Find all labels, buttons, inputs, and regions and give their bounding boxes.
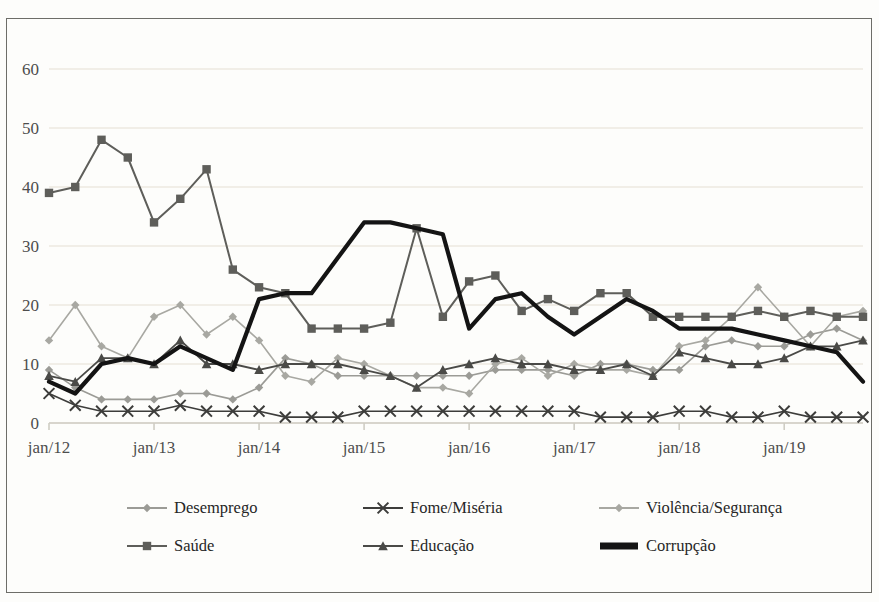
data-point-marker bbox=[334, 324, 342, 332]
y-axis-tick-label: 50 bbox=[22, 119, 39, 138]
x-axis-tick-label: jan/12 bbox=[27, 438, 71, 457]
series-line bbox=[49, 394, 863, 418]
data-point-marker bbox=[833, 324, 841, 332]
data-point-marker bbox=[779, 353, 789, 362]
x-axis-tick-label: jan/17 bbox=[552, 438, 596, 457]
data-point-marker bbox=[596, 289, 604, 297]
legend-label-educacao: Educação bbox=[410, 538, 474, 555]
plot-area: 6050403020100jan/12jan/13jan/14jan/15jan… bbox=[7, 19, 873, 474]
data-point-marker bbox=[150, 313, 158, 321]
data-point-marker bbox=[143, 542, 151, 550]
series-fome-mis-ria bbox=[44, 388, 869, 422]
data-point-marker bbox=[334, 372, 342, 380]
data-point-marker bbox=[779, 406, 790, 417]
legend-swatch-educacao bbox=[361, 538, 405, 554]
y-axis-tick-label: 40 bbox=[22, 178, 39, 197]
legend-swatch-corrupcao bbox=[597, 538, 641, 554]
y-axis-tick-label: 0 bbox=[31, 414, 40, 433]
series-line bbox=[49, 140, 863, 329]
data-point-marker bbox=[675, 313, 683, 321]
data-point-marker bbox=[124, 153, 132, 161]
legend-row-1: Desemprego Fome/Miséria Violência/Segura… bbox=[7, 489, 873, 527]
chart-legend: Desemprego Fome/Miséria Violência/Segura… bbox=[7, 489, 873, 584]
y-axis-tick-label: 30 bbox=[22, 237, 39, 256]
x-axis-tick-label: jan/14 bbox=[237, 438, 281, 457]
data-point-marker bbox=[255, 283, 263, 291]
data-point-marker bbox=[97, 395, 105, 403]
data-point-marker bbox=[45, 189, 53, 197]
data-point-marker bbox=[859, 313, 867, 321]
x-axis-tick-label: jan/16 bbox=[447, 438, 491, 457]
series-line bbox=[49, 287, 863, 393]
data-point-marker bbox=[615, 504, 623, 512]
legend-swatch-desemprego bbox=[125, 500, 169, 516]
data-point-marker bbox=[176, 389, 184, 397]
data-point-marker bbox=[307, 324, 315, 332]
data-point-marker bbox=[143, 504, 151, 512]
data-point-marker bbox=[229, 265, 237, 273]
data-point-marker bbox=[833, 313, 841, 321]
chart-frame: 6050403020100jan/12jan/13jan/14jan/15jan… bbox=[6, 18, 872, 593]
y-axis-tick-label: 10 bbox=[22, 355, 39, 374]
x-axis-tick-label: jan/18 bbox=[657, 438, 701, 457]
data-point-marker bbox=[806, 330, 814, 338]
legend-label-corrupcao: Corrupção bbox=[646, 538, 716, 555]
cut-off-title-strip bbox=[0, 0, 879, 18]
line-chart-svg: 6050403020100jan/12jan/13jan/14jan/15jan… bbox=[7, 19, 873, 474]
data-point-marker bbox=[175, 336, 185, 345]
legend-item-fome-miseria[interactable]: Fome/Miséria bbox=[361, 500, 597, 517]
legend-item-desemprego[interactable]: Desemprego bbox=[125, 500, 361, 517]
data-point-marker bbox=[97, 136, 105, 144]
data-point-marker bbox=[491, 271, 499, 279]
data-point-marker bbox=[754, 307, 762, 315]
legend-label-fome-miseria: Fome/Miséria bbox=[410, 500, 503, 517]
data-point-marker bbox=[780, 313, 788, 321]
legend-swatch-fome-miseria bbox=[361, 500, 405, 516]
data-point-marker bbox=[491, 353, 501, 362]
legend-item-saude[interactable]: Saúde bbox=[125, 538, 361, 555]
legend-label-violencia-seguranca: Violência/Segurança bbox=[646, 500, 782, 517]
data-point-marker bbox=[439, 313, 447, 321]
data-point-marker bbox=[517, 307, 525, 315]
legend-glyph-icon bbox=[597, 538, 641, 554]
data-point-marker bbox=[728, 313, 736, 321]
data-point-marker bbox=[412, 372, 420, 380]
y-axis-tick-label: 20 bbox=[22, 296, 39, 315]
data-point-marker bbox=[754, 342, 762, 350]
data-point-marker bbox=[150, 218, 158, 226]
legend-swatch-violencia-seguranca bbox=[597, 500, 641, 516]
data-point-marker bbox=[544, 295, 552, 303]
data-point-marker bbox=[780, 342, 788, 350]
legend-label-saude: Saúde bbox=[174, 538, 214, 555]
data-point-marker bbox=[674, 347, 684, 356]
x-axis-tick-label: jan/19 bbox=[762, 438, 806, 457]
data-point-marker bbox=[202, 165, 210, 173]
legend-glyph-icon bbox=[125, 500, 169, 516]
legend-glyph-icon bbox=[125, 538, 169, 554]
legend-glyph-icon bbox=[361, 500, 405, 516]
data-point-marker bbox=[176, 195, 184, 203]
data-point-marker bbox=[806, 307, 814, 315]
data-point-marker bbox=[439, 383, 447, 391]
data-point-marker bbox=[71, 183, 79, 191]
legend-glyph-icon bbox=[361, 538, 405, 554]
data-point-marker bbox=[465, 277, 473, 285]
data-point-marker bbox=[175, 400, 186, 411]
data-point-marker bbox=[465, 372, 473, 380]
data-point-marker bbox=[728, 336, 736, 344]
y-axis-tick-label: 60 bbox=[22, 60, 39, 79]
legend-item-educacao[interactable]: Educação bbox=[361, 538, 597, 555]
data-point-marker bbox=[360, 324, 368, 332]
x-axis-tick-label: jan/15 bbox=[342, 438, 386, 457]
legend-item-corrupcao[interactable]: Corrupção bbox=[597, 538, 833, 555]
legend-item-violencia-seguranca[interactable]: Violência/Segurança bbox=[597, 500, 833, 517]
data-point-marker bbox=[124, 395, 132, 403]
legend-row-2: Saúde Educação Corrupção bbox=[7, 527, 873, 565]
data-point-marker bbox=[202, 389, 210, 397]
data-point-marker bbox=[97, 342, 105, 350]
x-axis-tick-label: jan/13 bbox=[132, 438, 176, 457]
data-point-marker bbox=[570, 307, 578, 315]
data-point-marker bbox=[70, 400, 81, 411]
legend-label-desemprego: Desemprego bbox=[174, 500, 257, 517]
data-point-marker bbox=[386, 319, 394, 327]
